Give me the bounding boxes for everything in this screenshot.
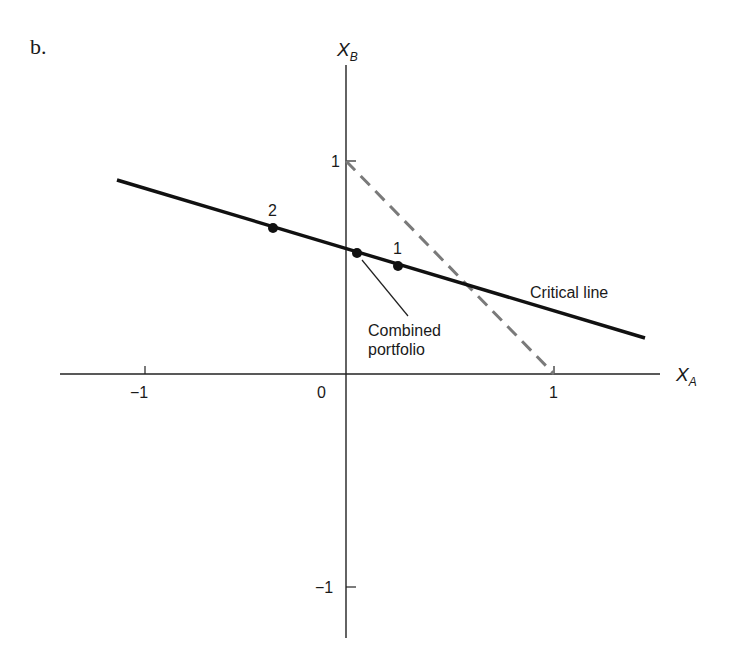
point-1-label: 1 [393,240,402,257]
panel-label: b. [30,34,47,59]
combined-portfolio-label-2: portfolio [368,341,425,358]
portfolio-point-2 [268,223,278,233]
x-axis-label: XA [675,364,697,389]
critical-line-label: Critical line [530,284,608,301]
x-tick-label-1: 1 [549,384,558,401]
portfolio-point-1 [393,261,403,271]
x-tick-label-0: 0 [317,384,326,401]
critical-line [117,180,645,338]
y-tick-label-1: 1 [331,153,340,170]
combined-portfolio-label-1: Combined [368,322,441,339]
combined-portfolio-point [352,248,362,258]
point-2-label: 2 [268,202,277,219]
x-tick-label-neg1: −1 [130,384,148,401]
y-tick-label-neg1: −1 [315,579,333,596]
y-axis-label: XB [336,39,358,64]
diagram: b. −1 0 1 1 −1 XB XA Critical line 2 1 C… [0,0,735,669]
